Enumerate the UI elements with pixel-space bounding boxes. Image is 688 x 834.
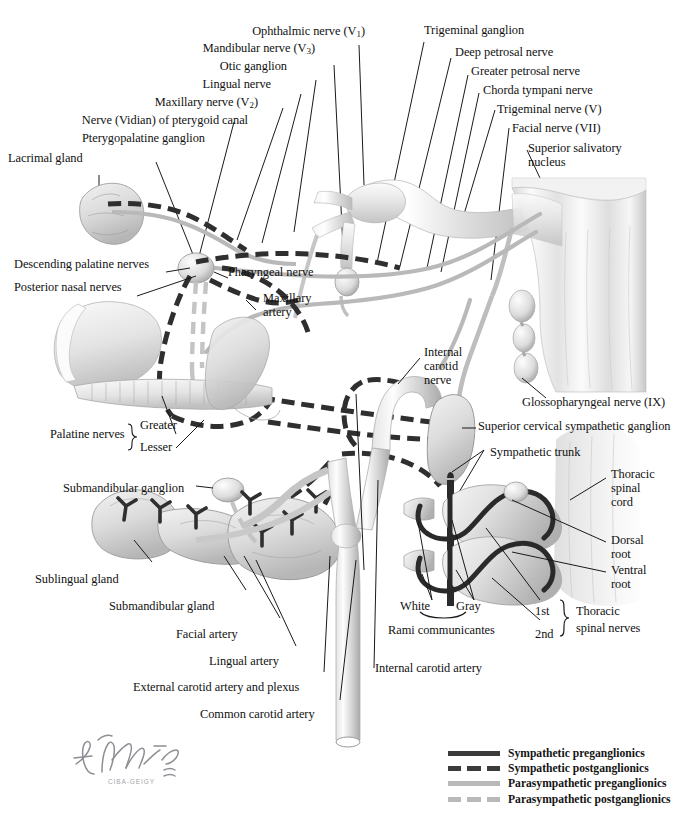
label-chorda-tympani-nerve: Chorda tympani nerve [483, 84, 593, 98]
label-palatine-lesser: Lesser [140, 441, 172, 455]
label-thoracic-spinal-cord: Thoracic [611, 468, 655, 482]
legend: Sympathetic preganglionics Sympathetic p… [448, 746, 688, 807]
label-thoracic-spinal-nerves-line2: spinal nerves [576, 622, 640, 636]
label-ventral-root-line2: root [611, 578, 631, 592]
label-palatine-greater: Greater [140, 419, 177, 433]
signature-strokes [74, 735, 178, 776]
label-maxillary-nerve: Maxillary nerve (V2) [30, 96, 258, 113]
label-thoracic-spinal-cord-line2: spinal [611, 482, 640, 496]
label-trigeminal-nerve: Trigeminal nerve (V) [497, 103, 602, 117]
label-facial-nerve: Facial nerve (VII) [512, 122, 601, 136]
legend-row-sympathetic-postganglionics: Sympathetic postganglionics [448, 761, 688, 776]
label-greater-petrosal-nerve: Greater petrosal nerve [471, 65, 580, 79]
label-superior-salivatory-nucleus-line2: nucleus [528, 156, 566, 170]
legend-label-parasympathetic-preganglionics: Parasympathetic preganglionics [508, 776, 667, 791]
mandibular-nerve-branch [341, 222, 355, 268]
carotid-bifurcation [331, 524, 361, 548]
label-lingual-nerve: Lingual nerve [55, 78, 271, 92]
legend-swatch-parasympathetic-postganglionics [448, 797, 500, 802]
label-thoracic-spinal-cord-line3: cord [611, 496, 633, 510]
trigeminal-ganglion [346, 183, 406, 223]
otic-ganglion [335, 268, 359, 296]
label-mandibular-nerve: Mandibular nerve (V3) [55, 42, 315, 59]
label-vidian-nerve: Nerve (Vidian) of pterygoid canal [10, 114, 248, 128]
label-submandibular-ganglion: Submandibular ganglion [63, 482, 184, 496]
label-submandibular-gland: Submandibular gland [109, 600, 214, 614]
label-glossopharyngeal-nerve: Glossopharyngeal nerve (IX) [522, 396, 665, 410]
label-pterygopalatine-ganglion: Pterygopalatine ganglion [8, 132, 205, 146]
label-internal-carotid-nerve-line3: nerve [424, 374, 451, 388]
submandibular-ganglion [212, 478, 244, 502]
label-superior-salivatory-nucleus: Superior salivatory [528, 142, 622, 156]
pterygopalatine-ganglion [178, 253, 214, 283]
label-lacrimal-gland: Lacrimal gland [8, 152, 83, 166]
label-superior-cervical-sympathetic-ganglion: Superior cervical sympathetic ganglion [478, 420, 671, 434]
label-sublingual-gland: Sublingual gland [35, 573, 119, 587]
label-second-thoracic-nerve: 2nd [535, 628, 553, 642]
pons [512, 194, 562, 246]
label-sympathetic-trunk: Sympathetic trunk [490, 446, 580, 460]
legend-swatch-parasympathetic-preganglionics [448, 781, 500, 786]
label-dorsal-root-line2: root [611, 548, 631, 562]
label-posterior-nasal-nerves: Posterior nasal nerves [14, 281, 122, 295]
palatine-nerves-brace [128, 424, 137, 450]
label-maxillary-artery: Maxillary [263, 292, 311, 306]
label-rami-communicantes: Rami communicantes [388, 624, 495, 638]
leader-submandibular-ganglion [196, 486, 213, 488]
legend-row-parasympathetic-postganglionics: Parasympathetic postganglionics [448, 792, 688, 807]
label-descending-palatine-nerves: Descending palatine nerves [14, 258, 149, 272]
facial-nerve-descending [458, 296, 492, 412]
legend-label-sympathetic-preganglionics: Sympathetic preganglionics [508, 746, 645, 761]
otic-ganglion-stalk [341, 296, 348, 316]
artist-signature: CIBA-GEIGY [68, 730, 198, 788]
label-rami-gray: Gray [456, 600, 481, 614]
legend-swatch-sympathetic-preganglionics [448, 751, 500, 756]
dorsal-root-ganglion-1 [504, 482, 528, 502]
label-rami-white: White [400, 600, 430, 614]
legend-label-sympathetic-postganglionics: Sympathetic postganglionics [508, 761, 649, 776]
label-lingual-artery: Lingual artery [209, 655, 279, 669]
superior-cervical-sympathetic-ganglion [427, 395, 475, 485]
label-thoracic-spinal-nerves: Thoracic [576, 605, 620, 619]
label-dorsal-root: Dorsal [611, 534, 644, 548]
label-internal-carotid-nerve: Internal [424, 346, 462, 360]
label-internal-carotid-nerve-line2: carotid [424, 360, 458, 374]
label-internal-carotid-artery: Internal carotid artery [375, 662, 482, 676]
label-maxillary-artery-line2: artery [263, 306, 292, 320]
label-deep-petrosal-nerve: Deep petrosal nerve [455, 46, 553, 60]
common-carotid-cut-end [336, 737, 360, 747]
label-common-carotid-artery: Common carotid artery [200, 708, 315, 722]
internal-carotid-artery [356, 448, 390, 530]
legend-label-parasympathetic-postganglionics: Parasympathetic postganglionics [508, 792, 671, 807]
label-palatine-nerves: Palatine nerves [50, 428, 125, 442]
ophthalmic-nerve-branch [314, 191, 352, 210]
legend-row-sympathetic-preganglionics: Sympathetic preganglionics [448, 746, 688, 761]
external-carotid-artery [328, 458, 356, 530]
label-first-thoracic-nerve: 1st [535, 605, 549, 619]
publisher-mark: CIBA-GEIGY [108, 778, 155, 785]
label-ophthalmic-nerve: Ophthalmic nerve (V1) [55, 25, 365, 42]
thoracic-spinal-nerves-brace [560, 600, 569, 636]
label-otic-ganglion: Otic ganglion [55, 60, 287, 74]
legend-row-parasympathetic-preganglionics: Parasympathetic preganglionics [448, 776, 688, 791]
label-pharyngeal-nerve: Pharyngeal nerve [228, 266, 314, 280]
label-external-carotid-artery: External carotid artery and plexus [133, 681, 299, 695]
submandibular-gland [228, 498, 341, 580]
legend-swatch-sympathetic-postganglionics [448, 766, 500, 771]
label-facial-artery: Facial artery [176, 628, 238, 642]
label-ventral-root: Ventral [611, 564, 646, 578]
common-carotid-artery [336, 530, 360, 740]
label-trigeminal-ganglion: Trigeminal ganglion [424, 24, 524, 38]
glossopharyngeal-nerve-rootlets [509, 290, 538, 383]
